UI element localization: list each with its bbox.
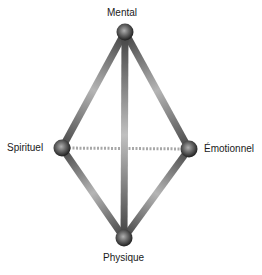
label-mental: Mental [107, 7, 137, 19]
edge-emotionnel-physique [124, 149, 189, 238]
label-physique: Physique [103, 252, 144, 264]
label-emotionnel: Émotionnel [204, 143, 254, 155]
label-spirituel: Spirituel [7, 142, 43, 154]
edge-spirituel-physique [62, 148, 124, 238]
edge-mental-spirituel [62, 32, 125, 148]
node-spirituel [54, 140, 71, 157]
edge-mental-emotionnel [125, 32, 189, 149]
node-physique [116, 230, 133, 247]
node-mental [117, 24, 134, 41]
edges [62, 32, 189, 238]
node-emotionnel [181, 141, 198, 158]
diamond-diagram [0, 0, 262, 275]
edge-mental-physique [124, 32, 125, 238]
